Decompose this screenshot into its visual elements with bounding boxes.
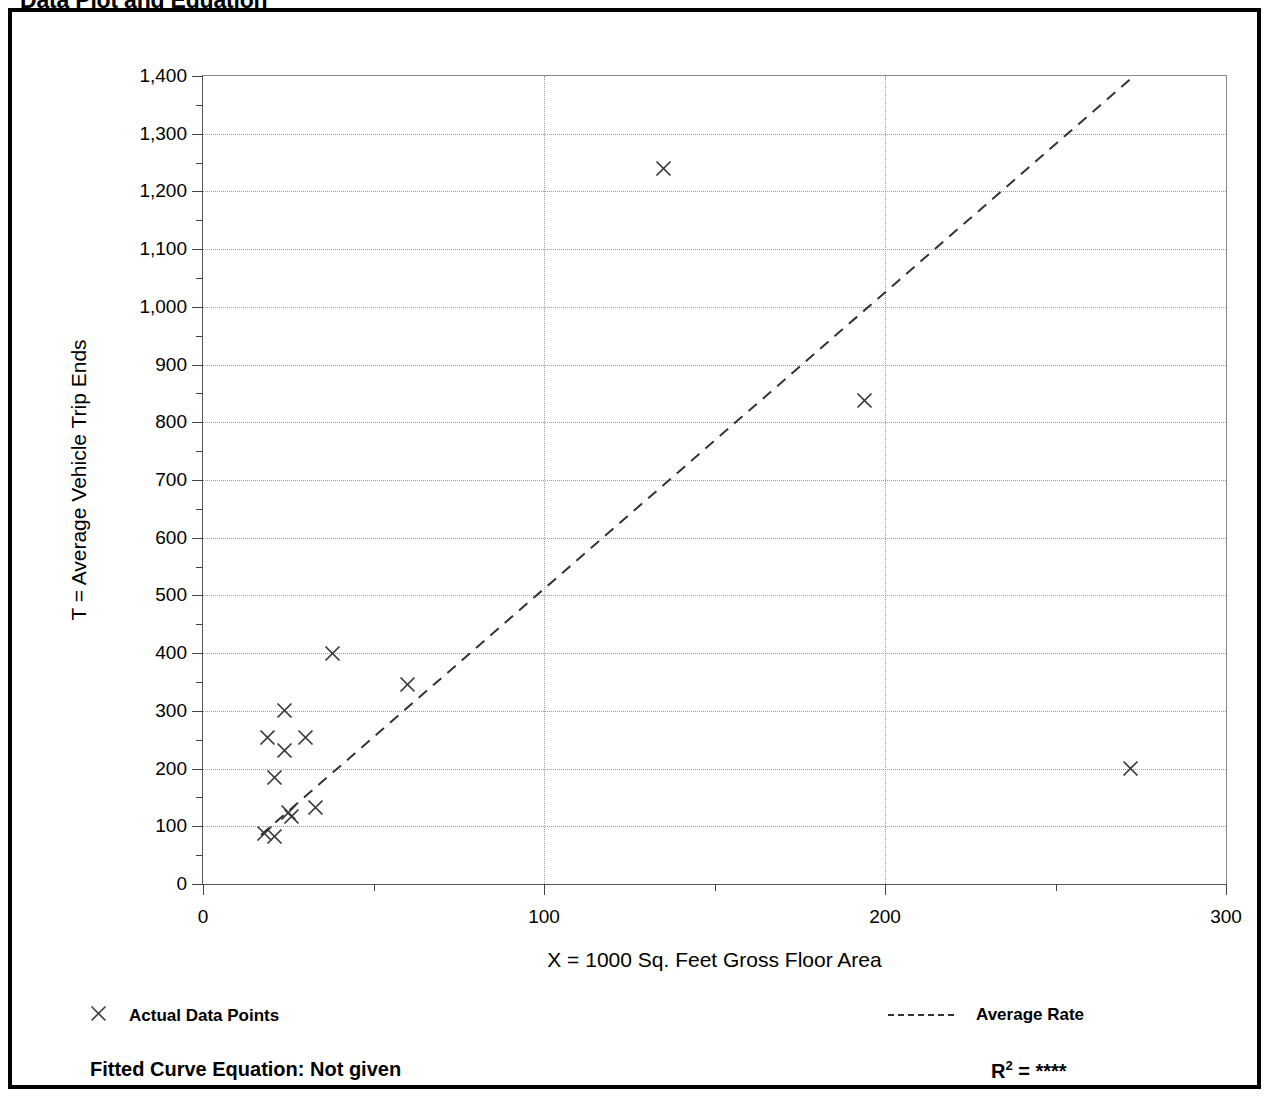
x-axis-minor-tick (715, 884, 716, 891)
y-axis-tick (192, 422, 203, 423)
x-axis-label: 200 (869, 906, 901, 928)
x-axis-minor-tick (374, 884, 375, 891)
r-squared-value: = **** (1018, 1060, 1066, 1082)
y-axis-label: 1,300 (139, 123, 187, 145)
x-axis-label: 0 (198, 906, 209, 928)
y-axis-minor-tick (196, 624, 203, 625)
chart-footer: Fitted Curve Equation: Not given R2 = **… (12, 1058, 1257, 1088)
figure-frame: 01002003004005006007008009001,0001,1001,… (8, 8, 1261, 1089)
legend-item-actual-data-points: Actual Data Points (90, 1005, 279, 1026)
x-axis-label: 100 (528, 906, 560, 928)
y-axis-label: 900 (155, 354, 187, 376)
y-axis-minor-tick (196, 855, 203, 856)
x-axis-tick (1226, 884, 1227, 895)
y-axis-title-text: T = Average Vehicle Trip Ends (67, 339, 91, 620)
y-axis-label: 1,200 (139, 180, 187, 202)
y-axis-label: 500 (155, 584, 187, 606)
plot-area: 01002003004005006007008009001,0001,1001,… (202, 75, 1227, 885)
y-axis-minor-tick (196, 682, 203, 683)
x-marker-icon (90, 1005, 107, 1026)
x-axis-tick (885, 884, 886, 895)
fitted-curve-equation: Fitted Curve Equation: Not given (90, 1058, 401, 1081)
legend-item-average-rate: Average Rate (888, 1005, 1084, 1025)
dashed-line-icon (888, 1014, 954, 1016)
y-axis-minor-tick (196, 740, 203, 741)
y-axis-minor-tick (196, 278, 203, 279)
y-axis-tick (192, 191, 203, 192)
y-axis-minor-tick (196, 509, 203, 510)
average-rate-trend-line (203, 76, 1226, 884)
y-axis-tick (192, 595, 203, 596)
y-axis-tick (192, 769, 203, 770)
y-axis-tick (192, 365, 203, 366)
y-axis-tick (192, 538, 203, 539)
y-axis-minor-tick (196, 393, 203, 394)
y-axis-tick (192, 480, 203, 481)
y-axis-tick (192, 826, 203, 827)
r-squared-prefix: R (991, 1060, 1005, 1082)
y-axis-tick (192, 76, 203, 77)
y-axis-minor-tick (196, 567, 203, 568)
y-axis-minor-tick (196, 163, 203, 164)
legend-label-average-rate: Average Rate (976, 1005, 1084, 1025)
y-axis-label: 1,000 (139, 296, 187, 318)
x-axis-title: X = 1000 Sq. Feet Gross Floor Area (202, 948, 1227, 972)
y-axis-title: T = Average Vehicle Trip Ends (64, 75, 94, 885)
y-axis-label: 400 (155, 642, 187, 664)
r-squared-statistic: R2 = **** (991, 1058, 1067, 1083)
y-axis-minor-tick (196, 220, 203, 221)
y-axis-label: 1,100 (139, 238, 187, 260)
x-axis-tick (203, 884, 204, 895)
y-axis-label: 100 (155, 815, 187, 837)
y-axis-tick (192, 711, 203, 712)
y-axis-label: 700 (155, 469, 187, 491)
y-axis-label: 1,400 (139, 65, 187, 87)
x-axis-label: 300 (1210, 906, 1242, 928)
y-axis-label: 600 (155, 527, 187, 549)
x-axis-tick (544, 884, 545, 895)
y-axis-minor-tick (196, 336, 203, 337)
y-axis-label: 800 (155, 411, 187, 433)
y-axis-tick (192, 134, 203, 135)
x-axis-minor-tick (1056, 884, 1057, 891)
y-axis-minor-tick (196, 105, 203, 106)
y-axis-minor-tick (196, 797, 203, 798)
y-axis-label: 300 (155, 700, 187, 722)
y-axis-tick (192, 249, 203, 250)
y-axis-tick (192, 653, 203, 654)
y-axis-tick (192, 884, 203, 885)
legend-label-actual-data-points: Actual Data Points (129, 1006, 279, 1026)
y-axis-minor-tick (196, 451, 203, 452)
y-axis-label: 0 (176, 873, 187, 895)
chart-legend: Actual Data Points Average Rate (12, 1005, 1257, 1033)
y-axis-label: 200 (155, 758, 187, 780)
y-axis-tick (192, 307, 203, 308)
r-squared-exponent: 2 (1005, 1058, 1012, 1073)
